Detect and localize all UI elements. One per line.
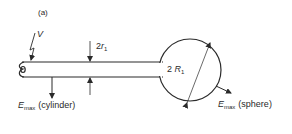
- voltage-label: V: [37, 29, 44, 39]
- panel-label: (a): [38, 8, 48, 17]
- wire-diameter-label: 2r1: [96, 41, 108, 52]
- cylinder-conductor: [19, 62, 162, 77]
- emax-cylinder-label: Emax(cylinder): [18, 100, 75, 111]
- emax-sphere-label: Emax(sphere): [218, 99, 272, 110]
- voltage-lightning-icon: [30, 33, 35, 60]
- emax-sphere-arrow: [216, 86, 231, 93]
- sphere-gap-diagram: (a) 2 R1 V 2r1 Emax(cylinder) Emax(spher…: [0, 0, 292, 134]
